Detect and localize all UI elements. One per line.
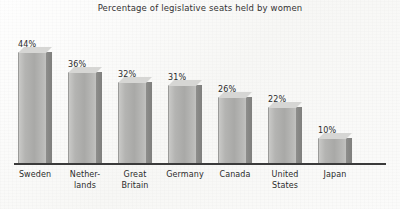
bar-front-face: [68, 72, 97, 163]
x-axis-category-labels: SwedenNether-landsGreatBritainGermanyCan…: [0, 169, 400, 209]
bar-top-cap: [168, 80, 202, 86]
bar-japan: 10%: [318, 138, 352, 163]
bar-germany: 31%: [168, 85, 202, 163]
bar-top-cap: [118, 77, 152, 83]
bar-canada: 26%: [218, 97, 252, 163]
bar-top-cap: [318, 133, 352, 139]
bar-body: [18, 52, 52, 163]
plot-area: 44%36%32%31%26%22%10%: [0, 28, 400, 163]
bar-front-face: [318, 138, 347, 163]
bar-front-face: [118, 82, 147, 163]
bar-united-states: 22%: [268, 107, 302, 163]
bar-chart: Percentage of legislative seats held by …: [0, 0, 400, 209]
bar-netherlands: 36%: [68, 72, 102, 163]
bar-body: [318, 138, 352, 163]
bar-front-face: [218, 97, 247, 163]
bar-side-face: [296, 107, 302, 163]
bar-front-face: [268, 107, 297, 163]
bar-top-cap: [268, 102, 302, 108]
bar-side-face: [196, 85, 202, 163]
chart-title: Percentage of legislative seats held by …: [0, 3, 400, 13]
bar-body: [168, 85, 202, 163]
x-axis-line: [14, 163, 386, 165]
bar-side-face: [96, 72, 102, 163]
category-label-line: Britain: [106, 180, 164, 191]
bar-side-face: [346, 138, 352, 163]
bar-sweden: 44%: [18, 52, 52, 163]
bar-front-face: [18, 52, 47, 163]
category-label-line: States: [256, 180, 314, 191]
bar-body: [68, 72, 102, 163]
category-label-line: Japan: [306, 169, 364, 180]
bar-side-face: [46, 52, 52, 163]
bar-top-cap: [218, 92, 252, 98]
bar-front-face: [168, 85, 197, 163]
bar-body: [268, 107, 302, 163]
bar-side-face: [246, 97, 252, 163]
bar-body: [218, 97, 252, 163]
category-label: Japan: [306, 169, 364, 180]
bar-great-britain: 32%: [118, 82, 152, 163]
bar-body: [118, 82, 152, 163]
bar-top-cap: [18, 47, 52, 53]
bar-top-cap: [68, 67, 102, 73]
bar-side-face: [146, 82, 152, 163]
